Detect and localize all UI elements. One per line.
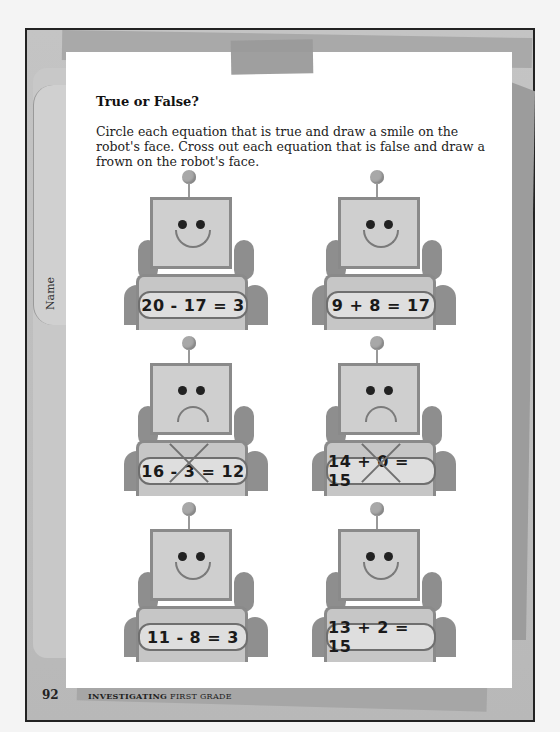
eye-icon [384,386,393,395]
smile-icon [363,562,399,580]
eye-icon [196,552,205,561]
smile-icon [363,230,399,248]
name-label: Name [44,277,57,310]
page-number: 92 [42,688,59,702]
smile-icon [175,230,211,248]
robot-head[interactable] [150,363,232,435]
frown-icon [177,406,209,422]
tape-strip [231,39,314,74]
worksheet-title: True or False? [96,94,199,109]
equation-plate[interactable]: 13 + 2 = 15 [326,623,436,651]
robot-2[interactable]: 9 + 8 = 17 [306,170,456,330]
frown-icon [365,406,397,422]
robot-head[interactable] [150,529,232,601]
eye-icon [366,386,375,395]
equation-plate[interactable]: 11 - 8 = 3 [138,623,248,651]
series-title-rest: FIRST GRADE [170,692,232,701]
equation-plate[interactable]: 14 + 0 = 15 [326,457,436,485]
eye-icon [366,552,375,561]
eye-icon [384,220,393,229]
antenna-stick [188,183,190,197]
antenna-icon [370,170,384,184]
antenna-icon [182,502,196,516]
robot-5[interactable]: 11 - 8 = 3 [118,502,268,662]
equation-plate[interactable]: 16 - 3 = 12 [138,457,248,485]
eye-icon [196,386,205,395]
robot-head[interactable] [338,363,420,435]
robot-6[interactable]: 13 + 2 = 15 [306,502,456,662]
eye-icon [178,386,187,395]
robot-4[interactable]: 14 + 0 = 15 [306,336,456,496]
robot-head[interactable] [150,197,232,269]
eye-icon [178,220,187,229]
eye-icon [178,552,187,561]
robot-head[interactable] [338,197,420,269]
smile-icon [175,562,211,580]
robot-head[interactable] [338,529,420,601]
series-title: INVESTIGATING FIRST GRADE [88,691,232,701]
robot-1[interactable]: 20 - 17 = 3 [118,170,268,330]
antenna-stick [188,349,190,363]
antenna-icon [370,502,384,516]
antenna-stick [376,183,378,197]
worksheet-instructions: Circle each equation that is true and dr… [96,124,506,169]
equation-plate[interactable]: 20 - 17 = 3 [138,291,248,319]
antenna-stick [376,515,378,529]
equation-plate[interactable]: 9 + 8 = 17 [326,291,436,319]
antenna-icon [182,336,196,350]
eye-icon [366,220,375,229]
name-tab-bump: Name [33,85,66,325]
robot-3[interactable]: 16 - 3 = 12 [118,336,268,496]
series-title-bold: INVESTIGATING [88,691,167,701]
antenna-icon [370,336,384,350]
antenna-stick [376,349,378,363]
antenna-icon [182,170,196,184]
eye-icon [196,220,205,229]
worksheet-page: True or False? Circle each equation that… [66,52,512,688]
antenna-stick [188,515,190,529]
eye-icon [384,552,393,561]
